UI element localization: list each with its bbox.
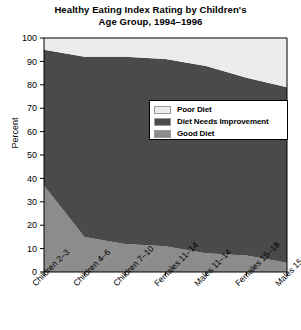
- legend-item: Good Diet: [154, 128, 287, 139]
- area-series-group: [44, 38, 287, 272]
- legend-label-good-diet: Good Diet: [177, 129, 214, 138]
- plot-area: 0102030405060708090100: [0, 0, 301, 330]
- y-tick-label: 90: [27, 57, 37, 67]
- y-tick-label: 100: [22, 33, 37, 43]
- y-tick-label: 30: [27, 197, 37, 207]
- legend-item: Poor Diet: [154, 104, 287, 115]
- y-tick-label: 70: [27, 103, 37, 113]
- legend-swatch-poor-diet: [154, 106, 171, 114]
- legend-swatch-good-diet: [154, 130, 171, 138]
- y-tick-label: 10: [27, 244, 37, 254]
- y-tick-label: 20: [27, 220, 37, 230]
- y-tick-labels: 0102030405060708090100: [22, 33, 37, 277]
- y-tick-label: 80: [27, 80, 37, 90]
- legend-swatch-diet-needs-improvement: [154, 118, 171, 126]
- chart-container: Healthy Eating Index Rating by Children'…: [0, 0, 301, 330]
- legend-label-poor-diet: Poor Diet: [177, 105, 212, 114]
- legend-item: Diet Needs Improvement: [154, 116, 287, 127]
- y-tick-label: 60: [27, 127, 37, 137]
- y-tick-label: 50: [27, 150, 37, 160]
- y-tick-label: 40: [27, 174, 37, 184]
- area-diet-needs-improvement: [44, 50, 287, 263]
- chart-legend: Poor Diet Diet Needs Improvement Good Di…: [149, 100, 288, 140]
- legend-label-diet-needs-improvement: Diet Needs Improvement: [177, 117, 269, 126]
